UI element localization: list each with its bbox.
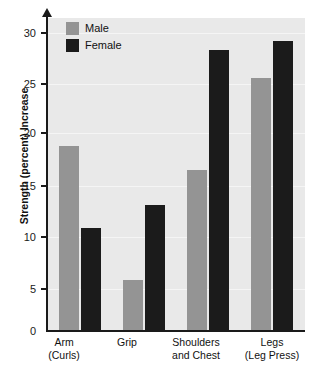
y-axis-line: [46, 14, 48, 331]
bar-male-grip: [123, 280, 143, 330]
bars-layer: [47, 18, 305, 330]
legend-item-male: Male: [66, 21, 122, 36]
x-label-shoulders-line2: and Chest: [156, 349, 236, 362]
y-tick-15: [41, 185, 47, 187]
legend-label-male: Male: [85, 22, 109, 35]
y-label-0: 0: [30, 326, 36, 336]
bar-male-legs: [251, 78, 271, 330]
x-label-grip-line1: Grip: [117, 336, 137, 348]
bar-female-arm: [81, 228, 101, 330]
male-swatch-icon: [66, 22, 79, 35]
legend: Male Female: [66, 21, 122, 55]
legend-item-female: Female: [66, 38, 122, 53]
y-label-5: 5: [30, 284, 36, 294]
x-label-shoulders: Shoulders and Chest: [156, 336, 236, 361]
x-label-arm: Arm (Curls): [29, 336, 99, 361]
x-label-shoulders-line1: Shoulders: [172, 336, 219, 348]
y-axis-title: Strength (percent) Increase: [18, 46, 30, 266]
bar-male-arm: [59, 146, 79, 330]
bar-male-shoulders: [187, 170, 207, 330]
y-tick-20: [41, 132, 47, 134]
x-label-legs: Legs (Leg Press): [232, 336, 312, 361]
y-tick-25: [41, 83, 47, 85]
bar-chart: 30 25 20 15 10 5 0 Strength (percent) In…: [0, 0, 315, 373]
x-label-arm-line1: Arm: [54, 336, 73, 348]
female-swatch-icon: [66, 39, 79, 52]
y-tick-5: [41, 288, 47, 290]
x-label-legs-line1: Legs: [261, 336, 284, 348]
bar-female-shoulders: [209, 50, 229, 330]
x-label-legs-line2: (Leg Press): [232, 349, 312, 362]
legend-label-female: Female: [85, 39, 122, 52]
bar-female-grip: [145, 205, 165, 330]
y-tick-10: [41, 236, 47, 238]
y-label-30: 30: [24, 28, 36, 38]
y-tick-30: [41, 32, 47, 34]
bar-female-legs: [273, 41, 293, 330]
x-label-grip: Grip: [92, 336, 162, 349]
x-label-arm-line2: (Curls): [29, 349, 99, 362]
x-axis-line: [46, 330, 305, 332]
